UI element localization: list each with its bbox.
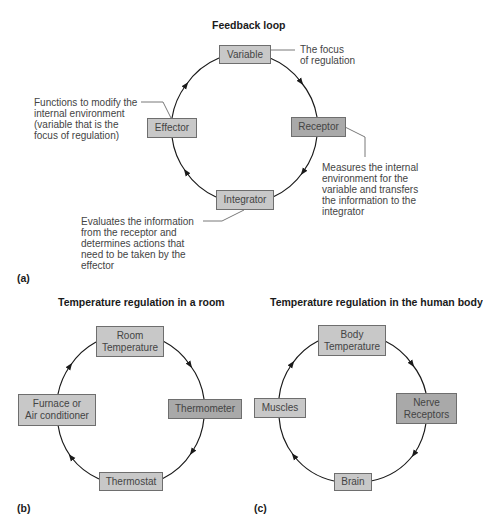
effector-annotation: Functions to modify the internal environ… <box>34 97 137 141</box>
variable-annotation: The focus of regulation <box>300 44 355 66</box>
panel-a-title: Feedback loop <box>212 19 286 31</box>
panel-a-label: (a) <box>17 272 30 284</box>
variable-box: Variable <box>219 45 271 64</box>
thermometer-label: Thermometer <box>175 403 235 415</box>
effector-label: Effector <box>155 122 189 134</box>
brain-label: Brain <box>341 476 364 488</box>
receptor-box: Receptor <box>291 117 346 137</box>
panel-b-label: (b) <box>17 502 30 514</box>
panel-b-title: Temperature regulation in a room <box>58 296 225 308</box>
body-temperature-label: Body Temperature <box>324 329 380 353</box>
room-temperature-label: Room Temperature <box>102 330 158 354</box>
furnace-label: Furnace or Air conditioner <box>25 398 89 422</box>
receptor-annotation: Measures the internal environment for th… <box>322 162 418 217</box>
integrator-annotation: Evaluates the information from the recep… <box>81 216 194 271</box>
body-temperature-box: Body Temperature <box>318 325 386 356</box>
room-temperature-box: Room Temperature <box>96 326 164 357</box>
muscles-box: Muscles <box>254 398 306 418</box>
thermostat-box: Thermostat <box>99 472 163 491</box>
furnace-box: Furnace or Air conditioner <box>18 394 96 426</box>
panel-c-label: (c) <box>254 502 267 514</box>
integrator-box: Integrator <box>216 190 274 210</box>
thermostat-label: Thermostat <box>106 476 157 488</box>
brain-box: Brain <box>334 473 372 491</box>
integrator-label: Integrator <box>224 194 267 206</box>
nerve-receptors-label: Nerve Receptors <box>404 397 450 421</box>
variable-label: Variable <box>227 49 263 61</box>
nerve-receptors-box: Nerve Receptors <box>396 393 457 424</box>
muscles-label: Muscles <box>262 402 299 414</box>
panel-c-title: Temperature regulation in the human body <box>270 296 483 308</box>
effector-box: Effector <box>147 118 197 138</box>
receptor-label: Receptor <box>298 121 339 133</box>
thermometer-box: Thermometer <box>168 399 242 419</box>
